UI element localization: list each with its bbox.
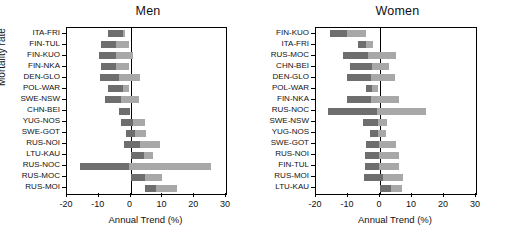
y-axis-label: LTU-KAU: [16, 150, 60, 158]
y-axis-label: SWE-GOT: [16, 128, 60, 136]
y-axis-tick: [62, 187, 66, 188]
y-axis-label: YUG-NOS: [16, 117, 60, 125]
bar-row: [67, 85, 226, 92]
x-axis-tick: [379, 193, 380, 197]
x-axis-tick-label: 10: [146, 200, 176, 209]
bar-row: [316, 30, 476, 37]
bar-segment-upper: [371, 74, 395, 81]
x-axis-tick-label: -20: [51, 200, 81, 209]
bar-segment-lower: [108, 85, 123, 92]
bar-row: [316, 174, 476, 181]
bar-segment-lower: [366, 141, 379, 148]
x-axis-tick-label: 0: [364, 200, 394, 209]
y-axis-label: RUS-MOC: [265, 51, 309, 59]
y-axis-tick: [62, 110, 66, 111]
bar-segment-upper: [378, 130, 386, 137]
plot-area-women: [315, 27, 477, 195]
y-axis-tick: [62, 88, 66, 89]
y-axis-tick: [62, 143, 66, 144]
y-axis-tick: [311, 154, 315, 155]
bar-row: [316, 52, 476, 59]
y-axis-tick: [62, 165, 66, 166]
bar-row: [67, 119, 226, 126]
y-axis-label: FIN-KUO: [16, 51, 60, 59]
x-axis-tick: [98, 193, 99, 197]
bar-row: [316, 163, 476, 170]
y-axis-tick: [62, 55, 66, 56]
bar-segment-lower: [80, 163, 129, 170]
bar-segment-lower: [347, 96, 371, 103]
y-axis-tick: [311, 66, 315, 67]
y-axis-tick: [311, 110, 315, 111]
y-axis-tick: [62, 44, 66, 45]
y-axis-label: FIN-NKA: [16, 62, 60, 70]
x-axis-tick-label: 20: [178, 200, 208, 209]
bar-segment-lower: [365, 163, 379, 170]
y-axis-label: DEN-GLO: [265, 73, 309, 81]
y-axis-label: FIN-NKA: [265, 95, 309, 103]
bar-segment-lower: [364, 174, 383, 181]
bar-segment-lower: [99, 52, 116, 59]
bar-segment-upper: [372, 63, 389, 70]
bar-segment-upper: [377, 108, 426, 115]
bar-segment-upper: [379, 141, 396, 148]
bar-segment-upper: [156, 185, 177, 192]
y-axis-label: SWE-GOT: [265, 139, 309, 147]
x-axis-tick: [130, 193, 131, 197]
bar-segment-upper: [372, 85, 378, 92]
bar-segment-lower: [108, 30, 123, 37]
y-axis-tick: [311, 176, 315, 177]
bar-row: [316, 63, 476, 70]
y-axis-label: DEN-GLO: [16, 73, 60, 81]
bar-segment-lower: [124, 141, 141, 148]
bar-segment-upper: [383, 174, 403, 181]
x-axis-tick: [315, 193, 316, 197]
bar-segment-lower: [131, 152, 144, 159]
bar-row: [316, 152, 476, 159]
bar-row: [316, 141, 476, 148]
bar-segment-upper: [347, 30, 366, 37]
y-axis-label: FIN-KUO: [265, 29, 309, 37]
bar-segment-upper: [379, 152, 399, 159]
y-axis-tick: [311, 187, 315, 188]
y-axis-tick: [311, 33, 315, 34]
bar-segment-upper: [145, 174, 163, 181]
y-axis-tick: [311, 132, 315, 133]
bar-row: [67, 108, 226, 115]
x-axis-tick: [161, 193, 162, 197]
x-axis-tick-label: 0: [115, 200, 145, 209]
bar-row: [316, 74, 476, 81]
y-axis-label: RUS-NOC: [265, 106, 309, 114]
bar-segment-upper: [116, 63, 129, 70]
y-axis-tick: [62, 154, 66, 155]
y-axis-label: RUS-NOI: [16, 139, 60, 147]
bar-row: [316, 85, 476, 92]
y-axis-label: POL-WAR: [16, 84, 60, 92]
bar-row: [67, 63, 226, 70]
bar-segment-upper: [371, 96, 399, 103]
x-axis-tick-label: 30: [460, 200, 490, 209]
bar-segment-upper: [123, 85, 129, 92]
x-axis-tick: [66, 193, 67, 197]
bar-segment-lower: [350, 63, 372, 70]
x-axis-tick: [225, 193, 226, 197]
y-axis-title: Mortality rate: [0, 28, 7, 86]
bar-segment-lower: [101, 41, 116, 48]
x-axis-tick: [193, 193, 194, 197]
y-axis-label: FIN-TUL: [265, 161, 309, 169]
x-axis-tick: [443, 193, 444, 197]
panel-men: Men Mortality rate Annual Trend (%) ITA-…: [0, 0, 250, 238]
x-axis-tick-label: 20: [428, 200, 458, 209]
bar-row: [316, 130, 476, 137]
y-axis-label: RUS-NOI: [265, 150, 309, 158]
y-axis-tick: [311, 99, 315, 100]
bar-segment-upper: [129, 163, 211, 170]
x-axis-tick-label: 30: [210, 200, 240, 209]
bar-segment-upper: [116, 41, 129, 48]
x-axis-tick-label: 10: [396, 200, 426, 209]
bar-segment-upper: [133, 119, 145, 126]
bar-segment-lower: [347, 74, 371, 81]
y-axis-label: RUS-MOI: [265, 172, 309, 180]
y-axis-tick: [311, 121, 315, 122]
figure-root: Men Mortality rate Annual Trend (%) ITA-…: [0, 0, 505, 238]
